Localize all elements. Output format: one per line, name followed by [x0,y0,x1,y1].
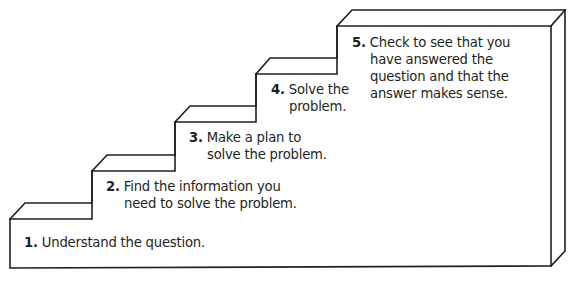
step-5-text-line-3: question and that the [352,68,510,85]
step-5-label: 5. Check to see that you have answered t… [352,34,510,102]
step-5-text-line-1: Check to see that you [370,35,510,50]
step-3-text-line-1: Make a plan to [207,130,301,145]
step-3-number: 3. [189,130,203,145]
step-2-text-line-1: Find the information you [124,179,281,194]
step-4-number: 4. [271,82,285,97]
step-1-number: 1. [24,235,38,250]
step-3-text-line-2: solve the problem. [189,146,327,163]
step-2-tread [92,155,175,171]
step-2-text-line-2: need to solve the problem. [106,195,297,212]
step-2-label: 2. Find the information you need to solv… [106,178,297,212]
step-1-tread [10,203,92,219]
step-5-number: 5. [352,35,366,50]
step-4-label: 4. Solve the problem. [271,81,349,115]
step-5-text-line-2: have answered the [352,51,510,68]
staircase-right-side [551,10,565,266]
step-1-text-line-1: Understand the question. [42,235,205,250]
step-3-label: 3. Make a plan to solve the problem. [189,129,327,163]
step-4-text-line-1: Solve the [289,82,349,97]
step-4-tread [256,58,337,74]
step-1-label: 1. Understand the question. [24,234,205,251]
step-3-tread [175,106,256,122]
step-5-top [337,10,565,26]
step-4-text-line-2: problem. [271,98,349,115]
step-2-number: 2. [106,179,120,194]
step-5-text-line-4: answer makes sense. [352,85,510,102]
